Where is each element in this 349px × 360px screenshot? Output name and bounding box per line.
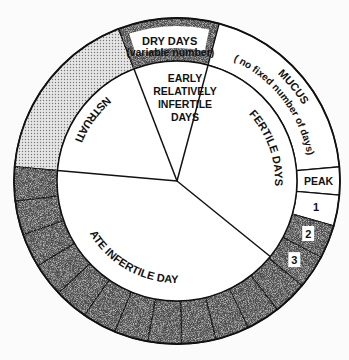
early-infertile-label: INFERTILE — [158, 98, 212, 110]
day-2-label: 2 — [305, 228, 311, 240]
late-infertile-day-segment — [14, 167, 58, 201]
early-infertile-label: DAYS — [171, 111, 199, 123]
early-infertile-label: EARLY — [168, 72, 203, 84]
dry-days-sublabel: (variable number) — [126, 46, 214, 58]
fertility-cycle-wheel: DRY DAYS(variable number)MUCUS( no fixed… — [0, 0, 349, 360]
early-infertile-label: RELATIVELY — [153, 85, 217, 97]
day-1-label: 1 — [313, 201, 319, 213]
peak-label: PEAK — [304, 175, 334, 187]
day-3-label: 3 — [291, 254, 297, 266]
inner-disc — [57, 61, 297, 301]
